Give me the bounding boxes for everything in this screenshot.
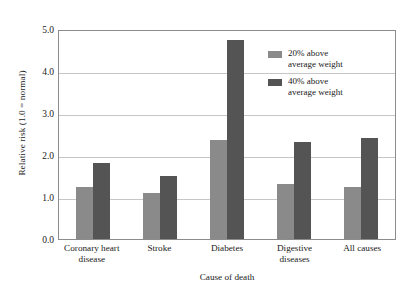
- legend-swatch-icon: [268, 79, 282, 86]
- bar-group: [193, 31, 260, 239]
- x-tick-label: Stroke: [126, 243, 194, 265]
- legend: 20% aboveaverage weight40% aboveaverage …: [268, 48, 388, 104]
- legend-label-line: 40% above: [288, 76, 343, 87]
- x-tick-label: Digestivediseases: [261, 243, 329, 265]
- x-axis-title: Cause of death: [58, 272, 396, 282]
- y-tick-label: 1.0: [22, 193, 54, 203]
- x-tick-label-line: diseases: [261, 254, 329, 265]
- bar: [160, 176, 177, 239]
- x-tick-label-line: Stroke: [126, 243, 194, 254]
- x-tick-label-line: Coronary heart: [58, 243, 126, 254]
- x-tick-label: All causes: [328, 243, 396, 265]
- bar-chart: Relative risk (1.0 = normal) 0.01.02.03.…: [0, 0, 415, 289]
- y-tick-label: 5.0: [22, 25, 54, 35]
- x-tick-label-line: Diabetes: [193, 243, 261, 254]
- bar: [93, 163, 110, 239]
- bar: [361, 138, 378, 239]
- legend-item[interactable]: 40% aboveaverage weight: [268, 76, 388, 97]
- x-tick-label-line: disease: [58, 254, 126, 265]
- bar: [277, 184, 294, 239]
- bar: [143, 193, 160, 239]
- bar-group: [126, 31, 193, 239]
- legend-label: 40% aboveaverage weight: [288, 76, 343, 97]
- x-tick-label-line: All causes: [328, 243, 396, 254]
- bar: [294, 142, 311, 239]
- bar: [210, 140, 227, 239]
- x-axis-tick-labels: Coronary heartdiseaseStrokeDiabetesDiges…: [58, 243, 396, 265]
- legend-label-line: average weight: [288, 59, 343, 70]
- y-tick-label: 0.0: [22, 235, 54, 245]
- y-tick-label: 4.0: [22, 67, 54, 77]
- y-tick-label: 2.0: [22, 151, 54, 161]
- legend-swatch-icon: [268, 51, 282, 58]
- legend-item[interactable]: 20% aboveaverage weight: [268, 48, 388, 69]
- bar-group: [59, 31, 126, 239]
- legend-label-line: average weight: [288, 87, 343, 98]
- bar: [76, 187, 93, 240]
- x-tick-label-line: Digestive: [261, 243, 329, 254]
- bar: [344, 187, 361, 240]
- bar: [227, 40, 244, 240]
- x-tick-label: Coronary heartdisease: [58, 243, 126, 265]
- legend-label: 20% aboveaverage weight: [288, 48, 343, 69]
- y-tick-label: 3.0: [22, 109, 54, 119]
- legend-label-line: 20% above: [288, 48, 343, 59]
- x-tick-label: Diabetes: [193, 243, 261, 265]
- y-axis-tick-labels: 0.01.02.03.04.05.0: [22, 0, 54, 289]
